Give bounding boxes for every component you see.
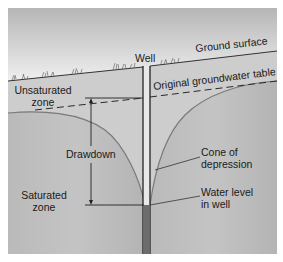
saturated-zone-label-line1: Saturated — [16, 189, 72, 201]
drawdown-label: Drawdown — [66, 148, 116, 160]
well-label: Well — [135, 52, 155, 64]
unsaturated-zone-label: Unsaturated zone — [14, 84, 72, 108]
cone-label-line2: depression — [201, 158, 252, 170]
unsaturated-zone-label-line1: Unsaturated — [14, 84, 72, 96]
saturated-zone-label: Saturated zone — [16, 189, 72, 213]
unsaturated-zone-label-line2: zone — [14, 96, 72, 108]
cone-label-line1: Cone of — [201, 146, 252, 158]
water-level-label: Water level in well — [201, 186, 253, 210]
cone-of-depression-label: Cone of depression — [201, 146, 252, 170]
water-level-label-line1: Water level — [201, 186, 253, 198]
saturated-zone-label-line2: zone — [16, 201, 72, 213]
well-water-column — [144, 205, 149, 254]
water-level-label-line2: in well — [201, 198, 253, 210]
